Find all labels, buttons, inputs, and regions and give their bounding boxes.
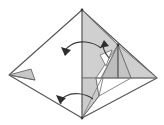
mid-peak-vertex-dot: [117, 44, 120, 47]
origami-figure: [0, 0, 164, 125]
origami-diagram-canvas: [0, 0, 164, 125]
top-vertex-dot: [81, 9, 84, 12]
bottom-vertex-dot: [81, 117, 84, 120]
